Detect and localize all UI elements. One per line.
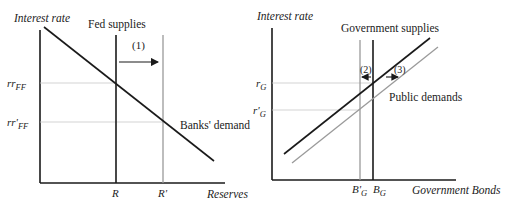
fed-supply-label: Fed supplies [88,18,146,31]
shift-2-label: (2) [360,64,372,76]
qty-bg-initial-label: BG [373,183,386,198]
qty-new-label: R' [157,187,168,199]
rate-g-new-label: r'G [253,104,266,119]
reserves-market-panel: Interest rate Reserves Fed supplies (1) … [7,12,250,200]
bonds-market-panel: Interest rate Government Bonds Governmen… [253,10,501,198]
public-demand-label: Public demands [389,91,463,103]
qty-initial-label: R [111,187,119,199]
monetary-diagram: Interest rate Reserves Fed supplies (1) … [0,0,507,206]
rate-g-initial-label: rG [256,77,266,92]
shift-1-label: (1) [132,39,145,52]
left-x-axis-label: Reserves [206,188,248,200]
rate-new-label: rr'FF [7,116,29,131]
right-x-axis-label: Government Bonds [412,184,501,196]
left-y-axis-label: Interest rate [13,12,70,24]
qty-bg-new-label: B'G [352,183,367,198]
banks-demand-curve [44,27,214,161]
rate-initial-label: rrFF [7,77,27,92]
right-y-axis-label: Interest rate [256,10,313,22]
shift-3-label: (3) [394,64,406,76]
government-supply-label: Government supplies [341,22,440,35]
banks-demand-label: Banks' demand [180,119,250,131]
